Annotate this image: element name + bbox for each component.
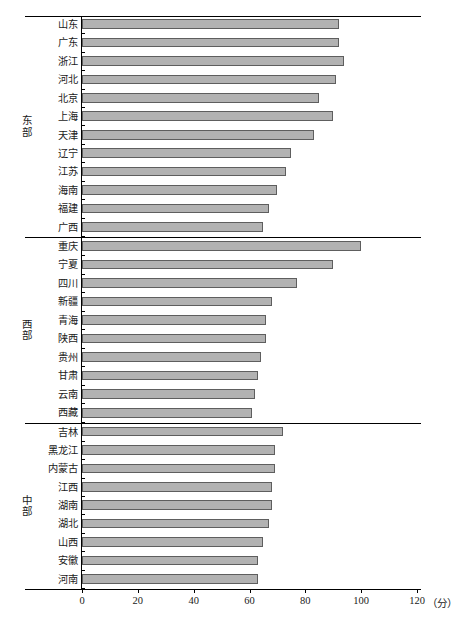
bar-row: 山西 [0, 534, 471, 552]
bar-row: 河北 [0, 71, 471, 89]
category-label: 辽宁 [35, 145, 81, 163]
bar [82, 19, 339, 29]
x-axis-tick [82, 589, 83, 593]
bar-row: 吉林 [0, 424, 471, 442]
bar [82, 482, 272, 492]
category-label: 青海 [35, 312, 81, 330]
category-label: 河南 [35, 571, 81, 589]
category-label: 安徽 [35, 552, 81, 570]
bar [82, 278, 297, 288]
bar-row: 甘肃 [0, 367, 471, 385]
bar-row: 黑龙江 [0, 442, 471, 460]
bar-row: 重庆 [0, 238, 471, 256]
bar-row: 江苏 [0, 163, 471, 181]
bar [82, 389, 255, 399]
x-axis-tick-label: 0 [62, 595, 102, 606]
bar [82, 38, 339, 48]
bar-row: 内蒙古 [0, 460, 471, 478]
bar [82, 519, 269, 529]
bar [82, 204, 269, 214]
bar [82, 260, 333, 270]
bar [82, 371, 258, 381]
x-axis-tick-label: 20 [118, 595, 158, 606]
bar-chart: 东部西部中部 山东广东浙江河北北京上海天津辽宁江苏海南福建广西重庆宁夏四川新疆青… [0, 0, 471, 626]
category-label: 山东 [35, 16, 81, 34]
bar-row: 湖北 [0, 515, 471, 533]
x-axis-tick [305, 589, 306, 593]
category-label: 福建 [35, 200, 81, 218]
category-label: 重庆 [35, 238, 81, 256]
bar-row: 海南 [0, 182, 471, 200]
bar-row: 陕西 [0, 330, 471, 348]
bar-row: 广西 [0, 219, 471, 237]
x-axis-tick [194, 589, 195, 593]
x-axis-tick [417, 589, 418, 593]
bar [82, 315, 266, 325]
category-label: 江西 [35, 479, 81, 497]
category-label: 湖南 [35, 497, 81, 515]
bar-row: 天津 [0, 127, 471, 145]
bar-row: 云南 [0, 386, 471, 404]
bar-row: 辽宁 [0, 145, 471, 163]
bar-row: 江西 [0, 479, 471, 497]
bar [82, 148, 291, 158]
category-label: 甘肃 [35, 367, 81, 385]
category-label: 黑龙江 [35, 442, 81, 460]
bar [82, 130, 314, 140]
category-label: 云南 [35, 386, 81, 404]
category-label: 内蒙古 [35, 460, 81, 478]
bar [82, 167, 286, 177]
category-label: 江苏 [35, 163, 81, 181]
x-axis-unit-label: （分） [427, 595, 457, 610]
x-axis-tick-label: 60 [230, 595, 270, 606]
bar [82, 241, 361, 251]
bar [82, 297, 272, 307]
category-label: 北京 [35, 90, 81, 108]
bar-row: 浙江 [0, 53, 471, 71]
bar [82, 427, 283, 437]
category-label: 四川 [35, 275, 81, 293]
category-label: 宁夏 [35, 256, 81, 274]
category-label: 海南 [35, 182, 81, 200]
category-label: 上海 [35, 108, 81, 126]
bar [82, 75, 336, 85]
bar-row: 广东 [0, 34, 471, 52]
category-label: 天津 [35, 127, 81, 145]
bar-row: 福建 [0, 200, 471, 218]
bar [82, 56, 344, 66]
category-label: 广西 [35, 219, 81, 237]
bar [82, 222, 263, 232]
bar [82, 445, 275, 455]
bar-row: 宁夏 [0, 256, 471, 274]
bar [82, 537, 263, 547]
bar [82, 185, 277, 195]
category-label: 西藏 [35, 404, 81, 422]
bar-row: 山东 [0, 16, 471, 34]
bar [82, 111, 333, 121]
bar [82, 408, 252, 418]
category-label: 浙江 [35, 53, 81, 71]
bar-row: 河南 [0, 571, 471, 589]
category-label: 新疆 [35, 293, 81, 311]
bar-row: 北京 [0, 90, 471, 108]
category-label: 陕西 [35, 330, 81, 348]
x-axis-tick-label: 80 [285, 595, 325, 606]
bar-row: 上海 [0, 108, 471, 126]
bar-row: 四川 [0, 275, 471, 293]
bar [82, 574, 258, 584]
bar-row: 西藏 [0, 404, 471, 422]
bar-row: 青海 [0, 312, 471, 330]
category-label: 河北 [35, 71, 81, 89]
bar-row: 湖南 [0, 497, 471, 515]
x-axis-tick-label: 40 [174, 595, 214, 606]
x-axis-tick-label: 100 [341, 595, 381, 606]
bar-row: 新疆 [0, 293, 471, 311]
category-label: 贵州 [35, 349, 81, 367]
bar [82, 500, 272, 510]
bar [82, 464, 275, 474]
x-axis-tick [361, 589, 362, 593]
bar-row: 安徽 [0, 552, 471, 570]
x-axis-tick [250, 589, 251, 593]
bar-row: 贵州 [0, 349, 471, 367]
x-axis-tick [138, 589, 139, 593]
